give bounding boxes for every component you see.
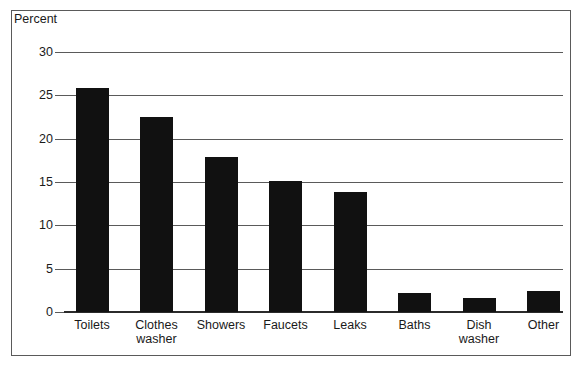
y-axis-title: Percent: [14, 12, 57, 26]
chart-frame: [11, 10, 571, 356]
